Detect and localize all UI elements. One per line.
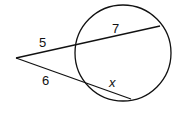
diagram-canvas (0, 0, 181, 113)
label-upper-external: 5 (39, 36, 46, 49)
label-lower-external: 6 (42, 74, 49, 87)
upper-secant (16, 26, 160, 58)
label-upper-internal: 7 (112, 22, 119, 35)
label-lower-internal: x (109, 76, 116, 89)
circle (75, 5, 171, 101)
secant-diagram: 5 7 6 x (0, 0, 181, 113)
